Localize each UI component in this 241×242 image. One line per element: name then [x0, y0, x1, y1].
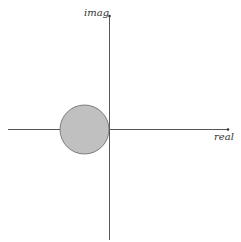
- real-axis-label: real: [214, 131, 234, 142]
- shaded-disk: [60, 105, 109, 154]
- imag-axis-label: imag: [84, 7, 109, 18]
- complex-plane-diagram: imag real: [0, 0, 241, 242]
